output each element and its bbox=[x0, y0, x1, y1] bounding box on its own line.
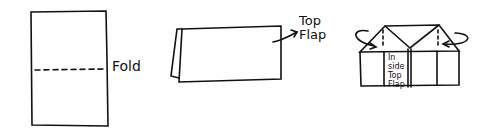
inside-line-1: In bbox=[388, 53, 405, 62]
figure-folded-flaps bbox=[356, 25, 468, 87]
inside-line-2: side bbox=[388, 62, 405, 71]
top-flap-label: Top Flap bbox=[299, 14, 326, 42]
figure-folded-card bbox=[171, 26, 297, 82]
diagram-canvas bbox=[0, 0, 503, 134]
inside-top-flap-label: In side Top Flap bbox=[388, 53, 405, 89]
inside-line-4: Flap bbox=[388, 80, 405, 89]
figure-unfolded-paper bbox=[31, 11, 108, 126]
inside-line-3: Top bbox=[388, 71, 405, 80]
top-flap-line-2: Flap bbox=[299, 28, 326, 42]
fold-label: Fold bbox=[112, 58, 141, 74]
top-flap-line-1: Top bbox=[299, 14, 326, 28]
